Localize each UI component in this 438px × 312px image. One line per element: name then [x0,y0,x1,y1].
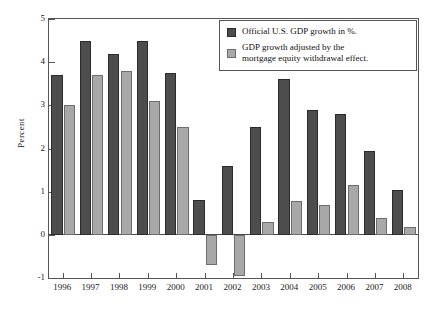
bar-adjusted-2007 [376,218,387,234]
bar-adjusted-1996 [64,105,75,235]
x-axis-tick [91,273,92,278]
x-axis-tick [403,273,404,278]
bar-official-1996 [51,75,62,235]
x-axis-tick [119,273,120,278]
legend-label-adjusted: GDP growth adjusted by the mortgage equi… [242,42,368,64]
x-axis-tick [290,273,291,278]
bar-official-1999 [137,41,148,235]
y-axis-tick: 4 [49,62,55,63]
x-axis-tick [63,273,64,278]
legend-item-official: Official U.S. GDP growth in %. [227,26,409,37]
x-axis-tick [148,273,149,278]
bar-adjusted-2002 [234,235,245,276]
y-tick-mark [49,19,55,20]
legend-item-adjusted: GDP growth adjusted by the mortgage equi… [227,42,409,64]
bar-adjusted-1997 [92,75,103,235]
x-axis-tick [347,273,348,278]
bar-adjusted-1998 [121,71,132,235]
x-axis-tick [205,273,206,278]
bar-official-2003 [250,127,261,235]
y-tick-mark [49,235,55,236]
x-axis-tick [375,273,376,278]
bar-official-2001 [193,200,204,235]
y-tick-mark [49,62,55,63]
x-axis-tick [176,273,177,278]
x-axis-tick [261,273,262,278]
bar-official-2006 [335,114,346,235]
y-tick-label: 2 [41,143,46,153]
bar-adjusted-2003 [262,222,273,235]
y-tick-mark [49,278,55,279]
legend-label-adjusted-line1: GDP growth adjusted by the [242,42,344,52]
bar-adjusted-2006 [348,185,359,235]
chart-legend: Official U.S. GDP growth in %. GDP growt… [219,20,417,71]
y-tick-label: 5 [41,13,46,23]
bar-official-2005 [307,110,318,235]
bar-official-2002 [222,166,233,235]
dark-gray-swatch-icon [227,28,236,37]
bar-official-2004 [278,79,289,234]
x-tick-label-2008: 2008 [383,282,423,292]
bar-adjusted-1999 [149,101,160,235]
bar-adjusted-2005 [319,205,330,234]
light-gray-swatch-icon [227,49,236,58]
y-axis-tick: 0 [49,235,55,236]
bar-official-2008 [392,190,403,235]
x-axis-tick [318,273,319,278]
legend-label-adjusted-line2: mortgage equity withdrawal effect. [242,53,368,63]
y-tick-label: -1 [38,272,46,282]
y-tick-label: 4 [41,56,46,66]
bar-official-2007 [364,151,375,235]
gdp-growth-bar-chart: Percent -1012345 19961997199819992000200… [0,0,438,312]
y-tick-label: 1 [41,186,46,196]
bar-official-1997 [80,41,91,235]
y-axis-title: Percent [16,103,26,163]
bar-adjusted-2004 [291,201,302,235]
legend-label-official: Official U.S. GDP growth in %. [242,26,357,37]
bar-adjusted-2008 [404,227,415,234]
bar-official-1998 [108,54,119,235]
y-axis-tick: 5 [49,19,55,20]
y-tick-label: 3 [41,99,46,109]
y-axis-tick: -1 [49,278,55,279]
bar-adjusted-2001 [206,235,217,265]
y-tick-label: 0 [41,229,46,239]
bar-official-2000 [165,73,176,235]
bar-adjusted-2000 [177,127,188,235]
